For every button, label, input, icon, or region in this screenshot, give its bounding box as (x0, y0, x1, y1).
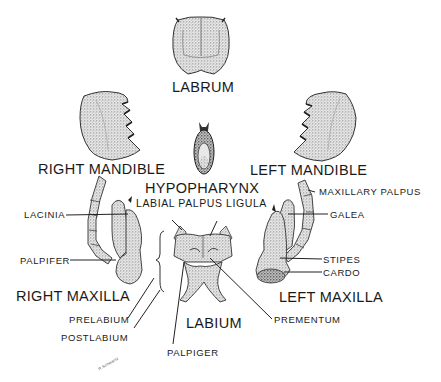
label-prelabium: PRELABIUM (69, 315, 129, 325)
leader-postlabium (134, 290, 160, 328)
label-prementum: PREMENTUM (274, 315, 341, 325)
label-labium: LABIUM (186, 316, 242, 331)
label-left-maxilla: LEFT MAXILLA (279, 290, 383, 305)
label-galea: GALEA (330, 210, 365, 220)
label-hypopharynx: HYPOPHARYNX (145, 181, 259, 196)
right-mandible-shape (80, 92, 140, 161)
leader-labial-palpus (172, 220, 182, 230)
labium-shape (174, 226, 232, 302)
label-stipes: STIPES (323, 255, 360, 265)
labrum-shape (173, 17, 229, 74)
label-postlabium: POSTLABIUM (61, 333, 128, 343)
label-palpiger: PALPIGER (167, 348, 219, 358)
left-maxilla-shape (256, 180, 314, 283)
label-ligula: LIGULA (226, 198, 267, 209)
right-maxilla-shape (88, 176, 142, 284)
label-left-mandible: LEFT MANDIBLE (250, 163, 367, 178)
label-right-mandible: RIGHT MANDIBLE (38, 162, 165, 177)
left-mandible-shape (294, 92, 356, 161)
label-lacinia: LACINIA (24, 210, 65, 220)
label-labrum: LABRUM (172, 80, 234, 95)
label-labial-palpus: LABIAL PALPUS (136, 198, 223, 209)
label-maxillary-palpus: MAXILLARY PALPUS (319, 187, 421, 197)
leader-prelabium (128, 278, 154, 318)
hypopharynx-shape (194, 122, 214, 174)
leader-palpiger (173, 262, 184, 344)
label-cardo: CARDO (323, 268, 360, 278)
label-palpifer: PALPIFER (20, 256, 70, 266)
label-right-maxilla: RIGHT MAXILLA (16, 289, 130, 304)
mouthparts-diagram: LABRUM RIGHT MANDIBLE LEFT MANDIBLE HYPO… (0, 0, 441, 382)
labium-brace (156, 231, 164, 292)
